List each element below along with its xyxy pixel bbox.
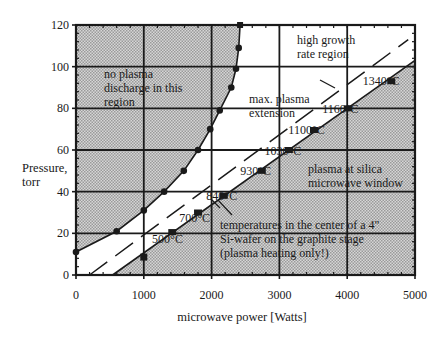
max-plasma-extension-annotation: max. plasma (249, 92, 310, 106)
y-tick-label: 120 (51, 18, 69, 32)
extension-pointer-line (320, 80, 335, 88)
no-plasma-annotation: no plasma (104, 67, 154, 81)
wafer-temperature-annotation: Si-wafer on the graphite stage (220, 232, 364, 246)
y-tick-label: 60 (57, 143, 69, 157)
boundary-circle-marker (195, 147, 202, 154)
y-tick-label: 0 (63, 268, 69, 282)
boundary-circle-marker (161, 188, 168, 195)
boundary-circle-marker (235, 45, 242, 52)
temperature-label: 500°C (152, 232, 183, 246)
boundary-circle-marker (233, 65, 240, 72)
boundary-circle-marker (73, 249, 80, 256)
y-tick-label: 40 (57, 185, 69, 199)
y-axis-title: Pressure, (22, 161, 67, 175)
wafer-temperature-annotation: temperatures in the center of a 4" (220, 218, 380, 232)
boundary-circle-marker (181, 168, 188, 175)
boundary-circle-marker (228, 84, 235, 91)
high-growth-annotation: rate region (297, 47, 349, 61)
silica-window-annotation: plasma at silica (308, 162, 383, 176)
high-growth-annotation: high growth (297, 33, 355, 47)
temperature-label: 1030°C (264, 144, 301, 158)
x-tick-label: 0 (73, 288, 79, 302)
boundary-circle-marker (207, 126, 214, 133)
temperature-label: 1160°C (322, 102, 358, 116)
x-axis-title: microwave power [Watts] (177, 310, 307, 324)
y-tick-label: 20 (57, 226, 69, 240)
no-plasma-annotation: region (104, 95, 135, 109)
y-tick-label: 100 (51, 60, 69, 74)
y-axis-title: torr (22, 175, 41, 189)
isolated-square-marker (140, 254, 147, 261)
wafer-temperature-annotation: (plasma heating only!) (220, 246, 329, 260)
x-tick-label: 5000 (403, 288, 427, 302)
temperature-label: 1100°C (288, 123, 324, 137)
boundary-circle-marker (141, 207, 148, 214)
x-tick-label: 2000 (200, 288, 224, 302)
temperature-label: 930°C (240, 164, 271, 178)
no-plasma-annotation: discharge in this (104, 81, 183, 95)
temperature-label: 1340°C (363, 74, 400, 88)
pressure-power-chart: 010002000300040005000020406080100120micr… (0, 0, 448, 337)
y-tick-label: 80 (57, 101, 69, 115)
boundary-square-marker (237, 22, 243, 28)
boundary-circle-marker (216, 107, 223, 114)
boundary-circle-marker (113, 228, 120, 235)
x-tick-label: 1000 (132, 288, 156, 302)
x-tick-label: 3000 (267, 288, 291, 302)
silica-window-annotation: microwave window (308, 176, 403, 190)
x-tick-label: 4000 (335, 288, 359, 302)
temperature-label: 700°C (179, 211, 210, 225)
max-plasma-extension-annotation: extension (249, 106, 295, 120)
temperature-label: 840°C (206, 189, 237, 203)
